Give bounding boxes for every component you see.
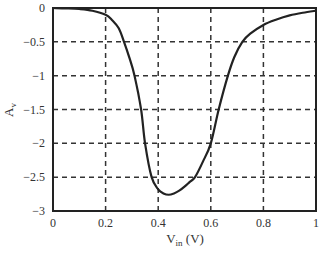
data-line-av xyxy=(53,8,316,195)
y-tick-label: −3 xyxy=(32,204,45,218)
x-axis-label: Vin (V) xyxy=(166,231,204,248)
y-tick-label: −1 xyxy=(32,69,45,83)
x-tick-label: 1 xyxy=(313,216,319,230)
y-axis-label: Av xyxy=(1,103,18,117)
x-tick-label: 0.6 xyxy=(203,216,218,230)
x-tick-label: 0.8 xyxy=(256,216,271,230)
y-tick-label: −1.5 xyxy=(23,103,45,117)
y-tick-label: −0.5 xyxy=(23,35,45,49)
chart: 00.20.40.60.81 0−0.5−1−1.5−2−2.5−3 Vin (… xyxy=(0,0,322,254)
x-tick-label: 0 xyxy=(50,216,56,230)
y-tick-label: 0 xyxy=(39,1,45,15)
y-tick-labels: 0−0.5−1−1.5−2−2.5−3 xyxy=(23,1,45,218)
x-tick-labels: 00.20.40.60.81 xyxy=(50,216,319,230)
x-tick-label: 0.2 xyxy=(98,216,113,230)
x-tick-label: 0.4 xyxy=(151,216,166,230)
y-tick-label: −2.5 xyxy=(23,170,45,184)
y-tick-label: −2 xyxy=(32,136,45,150)
grid-lines xyxy=(53,8,316,211)
